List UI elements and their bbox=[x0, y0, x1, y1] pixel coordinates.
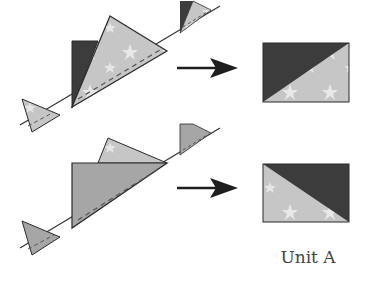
dog-ear-right bbox=[180, 124, 211, 155]
bottom-step bbox=[20, 124, 220, 255]
result-block-top bbox=[263, 43, 349, 102]
medium-triangle bbox=[72, 163, 167, 228]
arrow-bottom bbox=[177, 178, 238, 198]
piecing-diagram bbox=[0, 0, 368, 287]
result-block-bottom bbox=[263, 164, 349, 222]
unit-caption: Unit A bbox=[258, 247, 358, 267]
star-triangle bbox=[98, 138, 167, 163]
dog-ear-left bbox=[22, 221, 60, 255]
arrow-top bbox=[177, 58, 238, 78]
top-step bbox=[20, 1, 220, 132]
